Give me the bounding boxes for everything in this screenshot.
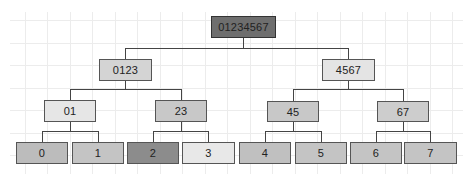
- edge: [376, 131, 377, 142]
- leaf-node-4: 4: [239, 142, 291, 164]
- edge: [125, 48, 349, 49]
- edge: [125, 48, 126, 59]
- edge: [208, 131, 209, 142]
- leaf-node-7: 7: [404, 142, 457, 164]
- edge: [70, 89, 71, 100]
- edge: [265, 131, 322, 132]
- node-label: 2: [150, 147, 156, 159]
- node-label: 3: [205, 147, 211, 159]
- node-label: 1: [95, 147, 101, 159]
- edge: [181, 89, 182, 100]
- edge: [293, 122, 294, 131]
- grid-line: [10, 133, 463, 134]
- node-label: 67: [397, 106, 410, 118]
- edge: [321, 131, 322, 142]
- node-0123: 0123: [99, 59, 152, 81]
- edge: [98, 131, 99, 142]
- node-label: 5: [318, 147, 324, 159]
- edge: [293, 89, 294, 101]
- node-label: 4: [262, 147, 268, 159]
- edge: [265, 131, 266, 142]
- leaf-node-5: 5: [295, 142, 347, 164]
- edge: [243, 38, 244, 48]
- edge: [70, 89, 182, 90]
- leaf-node-3: 3: [182, 142, 235, 164]
- edge: [70, 122, 71, 131]
- edge: [293, 89, 404, 90]
- node-label: 4567: [336, 64, 361, 76]
- edge: [348, 81, 349, 89]
- node-label: 7: [427, 147, 433, 159]
- edge: [42, 131, 99, 132]
- edge: [403, 89, 404, 101]
- edge: [153, 131, 209, 132]
- grid-line: [10, 65, 463, 66]
- edge: [376, 131, 431, 132]
- node-67: 67: [377, 101, 429, 122]
- leaf-node-2: 2: [127, 142, 179, 164]
- edge: [153, 131, 154, 142]
- edge: [403, 122, 404, 131]
- node-4567: 4567: [322, 59, 375, 81]
- edge: [348, 48, 349, 59]
- edge: [125, 81, 126, 89]
- tree-diagram: 01234567 0123 4567 01 23 45 67 0 1 2 3 4…: [0, 0, 473, 174]
- edge: [42, 131, 43, 142]
- grid-line: [10, 43, 463, 44]
- node-label: 0123: [113, 64, 138, 76]
- node-label: 23: [175, 105, 188, 117]
- node-label: 0: [39, 147, 45, 159]
- leaf-node-0: 0: [16, 142, 68, 164]
- edge: [181, 122, 182, 131]
- node-label: 6: [373, 147, 379, 159]
- node-45: 45: [267, 101, 319, 122]
- edge: [430, 131, 431, 142]
- leaf-node-1: 1: [72, 142, 124, 164]
- root-node: 01234567: [211, 16, 276, 38]
- node-23: 23: [155, 100, 207, 122]
- node-01: 01: [44, 100, 96, 122]
- node-label: 01234567: [218, 21, 269, 33]
- node-label: 45: [287, 106, 300, 118]
- leaf-node-6: 6: [350, 142, 402, 164]
- node-label: 01: [64, 105, 77, 117]
